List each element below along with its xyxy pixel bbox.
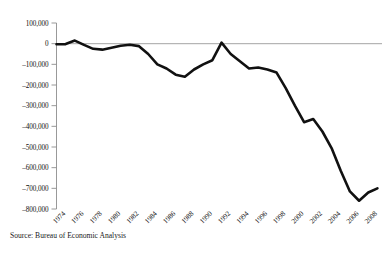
y-tick-label: –300,000 <box>21 102 49 110</box>
x-tick-label: 1978 <box>88 209 104 225</box>
source-note: Source: Bureau of Economic Analysis <box>10 231 126 240</box>
y-tick-label: –500,000 <box>21 144 49 152</box>
x-tick-label: 2008 <box>363 209 379 225</box>
chart-plot-area: 100,0000–100,000–200,000–300,000–400,000… <box>0 0 386 260</box>
y-tick-label: 0 <box>45 40 49 48</box>
x-tick-label: 2006 <box>345 209 361 225</box>
x-tick-label: 1984 <box>143 209 159 225</box>
y-tick-label: –800,000 <box>21 206 49 214</box>
x-tick-label: 1994 <box>235 209 251 225</box>
y-tick-label: –400,000 <box>21 123 49 131</box>
x-tick-label: 2004 <box>327 209 343 225</box>
x-tick-label: 1990 <box>198 209 214 225</box>
x-tick-label: 1982 <box>125 209 141 225</box>
x-axis-tick-labels: 1974197619781980198219841986198819901992… <box>52 209 380 225</box>
y-tick-label: –200,000 <box>21 82 49 90</box>
x-tick-label: 1992 <box>217 209 233 225</box>
y-tick-label: –100,000 <box>21 61 49 69</box>
y-tick-label: –700,000 <box>21 185 49 193</box>
x-tick-label: 1998 <box>272 209 288 225</box>
x-tick-label: 2000 <box>290 209 306 225</box>
y-axis-tick-labels: 100,0000–100,000–200,000–300,000–400,000… <box>21 20 49 214</box>
x-tick-label: 1974 <box>52 209 68 225</box>
y-axis <box>52 23 57 209</box>
y-tick-label: 100,000 <box>26 20 49 28</box>
x-tick-label: 1986 <box>162 209 178 225</box>
x-tick-label: 1996 <box>253 209 269 225</box>
x-tick-label: 1980 <box>107 209 123 225</box>
x-tick-label: 1976 <box>70 209 86 225</box>
chart-figure: 100,0000–100,000–200,000–300,000–400,000… <box>0 0 386 260</box>
x-tick-label: 1988 <box>180 209 196 225</box>
current-account-balance-line <box>57 41 378 201</box>
y-tick-label: –600,000 <box>21 164 49 172</box>
x-tick-label: 2002 <box>308 209 324 225</box>
y-tick-marks <box>52 23 57 209</box>
